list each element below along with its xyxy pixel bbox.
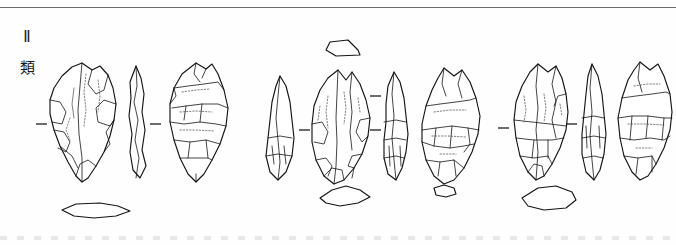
artifact-group-3[interactable] — [498, 62, 672, 210]
artifact-outline — [312, 70, 370, 184]
artifact-obverse-view[interactable] — [50, 63, 116, 182]
artifact-group-2[interactable] — [266, 40, 480, 206]
cross-section-outline — [434, 185, 456, 197]
cross-section-trapezoid[interactable] — [326, 40, 360, 56]
artifact-profile-view[interactable] — [266, 76, 294, 180]
type-label: Ⅱ 類 — [10, 26, 44, 81]
cross-section-outline — [62, 203, 130, 218]
cross-section-polygon[interactable] — [320, 186, 370, 206]
artifact-reverse-view[interactable] — [422, 68, 480, 184]
cross-section-outline — [320, 186, 370, 206]
cross-section-lenticular[interactable] — [62, 203, 130, 218]
artifact-profile-view[interactable] — [582, 64, 606, 180]
type-numeral-label: Ⅱ — [10, 26, 44, 49]
artifact-outline — [514, 64, 568, 180]
cross-section-outline — [522, 186, 576, 210]
artifact-obverse-view[interactable] — [514, 64, 568, 180]
artifact-reverse-view[interactable] — [170, 63, 228, 182]
bottom-scan-artifact — [0, 236, 676, 240]
artifact-obverse-view[interactable] — [312, 70, 370, 184]
artifact-illustration-canvas: .ol { fill:#ffffff; stroke:#141414; stro… — [0, 0, 676, 245]
cross-section-small[interactable] — [434, 185, 456, 197]
artifact-outline — [384, 72, 408, 180]
artifact-group-1[interactable] — [36, 63, 228, 218]
cross-section-pentagonal[interactable] — [522, 186, 576, 210]
artifact-reverse-view[interactable] — [618, 62, 672, 180]
type-kanji-label: 類 — [10, 57, 44, 80]
cross-section-outline — [326, 40, 360, 56]
artifact-profile-view[interactable] — [129, 66, 146, 178]
figure-plate: Ⅱ 類 .ol { fill:#ffffff; stroke:#141414; … — [0, 0, 676, 245]
top-divider-rule — [0, 7, 676, 8]
artifact-outline — [582, 64, 606, 180]
artifact-profile-view[interactable] — [384, 72, 408, 180]
